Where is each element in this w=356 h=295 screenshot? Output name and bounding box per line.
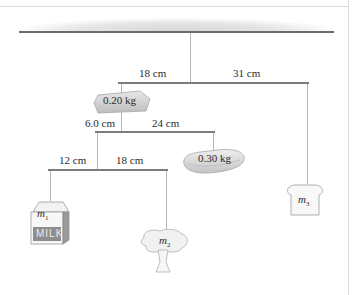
milk-carton-text: MILK: [36, 228, 63, 239]
middle-rod-right-length: 24 cm: [152, 117, 179, 129]
block-mass-label: 0.20 kg: [103, 94, 136, 106]
milk-mass-symbol: m: [37, 207, 45, 219]
milk-carton-icon: [27, 200, 73, 246]
bottom-rod: [48, 169, 168, 171]
broccoli-mass-label: m2: [159, 234, 170, 249]
steak-mass-label: 0.30 kg: [198, 152, 231, 164]
frame-border-right: [348, 0, 349, 295]
frame-border-top: [0, 6, 348, 7]
top-rod-right-length: 31 cm: [233, 67, 260, 79]
support-string: [190, 33, 191, 83]
middle-rod: [95, 131, 215, 133]
bottom-rod-right-length: 18 cm: [116, 154, 143, 166]
bottom-rod-left-length: 12 cm: [59, 154, 86, 166]
milk-mass-label: m1: [37, 207, 48, 222]
ceiling-shadow: [18, 18, 336, 32]
top-rod-left-length: 18 cm: [139, 67, 166, 79]
middle-rod-left-length: 6.0 cm: [85, 117, 115, 129]
string-bottom-right: [166, 171, 167, 229]
broccoli-mass-subscript: 2: [167, 241, 171, 249]
broccoli-mass-symbol: m: [159, 234, 167, 246]
milk-mass-subscript: 1: [45, 214, 49, 222]
bread-mass-symbol: m: [298, 193, 306, 205]
string-bottom-left: [50, 171, 51, 201]
string-top-right: [307, 84, 308, 184]
mobile-diagram: 18 cm 31 cm 0.20 kg 6.0 cm 24 cm 0.30 kg…: [0, 0, 356, 295]
string-middle-left: [97, 133, 98, 170]
ceiling: [19, 31, 334, 33]
top-rod: [118, 82, 309, 84]
bread-mass-label: m3: [298, 193, 309, 208]
bread-mass-subscript: 3: [306, 200, 310, 208]
